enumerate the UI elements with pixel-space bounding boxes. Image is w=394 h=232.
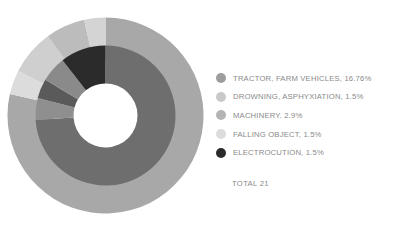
legend-swatch-electrocution [216,148,226,158]
legend-item-drowning-asphyxiation[interactable]: DROWNING, ASPHYXIATION, 1.5% [216,88,394,107]
chart-total-label: TOTAL 21 [232,179,269,188]
legend-item-electrocution[interactable]: ELECTROCUTION, 1.5% [216,143,394,162]
chart-page: TRACTOR, FARM VEHICLES, 16.76% DROWNING,… [0,0,394,232]
legend-label-falling-object: FALLING OBJECT, 1.5% [233,130,322,139]
legend-swatch-falling-object [216,129,226,139]
legend-label-machinery: MACHINERY. 2.9% [233,111,303,120]
donut-chart-svg [0,2,212,230]
legend-swatch-drowning-asphyxiation [216,92,226,102]
inner-ring [36,46,176,186]
legend-item-tractor-farm-vehicles[interactable]: TRACTOR, FARM VEHICLES, 16.76% [216,69,394,88]
legend-item-falling-object[interactable]: FALLING OBJECT, 1.5% [216,125,394,144]
chart-legend: TRACTOR, FARM VEHICLES, 16.76% DROWNING,… [216,69,394,162]
donut-chart [0,0,212,232]
legend-swatch-machinery [216,110,226,120]
legend-item-machinery[interactable]: MACHINERY. 2.9% [216,106,394,125]
legend-label-electrocution: ELECTROCUTION, 1.5% [233,148,324,157]
legend-swatch-tractor-farm-vehicles [216,73,226,83]
legend-label-drowning-asphyxiation: DROWNING, ASPHYXIATION, 1.5% [233,92,363,101]
legend-label-tractor-farm-vehicles: TRACTOR, FARM VEHICLES, 16.76% [233,74,372,83]
